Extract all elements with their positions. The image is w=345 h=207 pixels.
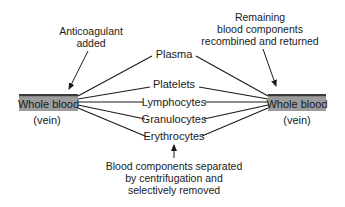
anticoagulant-line-1: Anticoagulant (59, 25, 123, 37)
component-platelets: Platelets (153, 78, 196, 90)
right-fan-lines (196, 56, 268, 136)
left-box-top-border (19, 94, 78, 96)
separation-line-3: selectively removed (128, 184, 220, 196)
component-plasma: Plasma (156, 48, 194, 60)
line-right-platelets (199, 87, 268, 99)
returned-line-2: blood components (217, 23, 303, 35)
apheresis-diagram: Whole blood (vein) Whole blood (vein) Pl… (0, 0, 345, 207)
line-right-plasma (196, 56, 268, 96)
right-whole-blood-label: Whole blood (266, 98, 327, 110)
line-left-platelets (78, 87, 150, 99)
anticoagulant-arrow-icon (69, 51, 88, 89)
separation-line-2: by centrifugation and (125, 172, 223, 184)
right-box-top-border (268, 94, 326, 96)
line-left-plasma (78, 56, 152, 96)
anticoagulant-annotation: Anticoagulant added (59, 25, 123, 89)
left-whole-blood-node: Whole blood (vein) (18, 94, 79, 126)
returned-annotation: Remaining blood components recombined an… (201, 11, 318, 86)
anticoagulant-line-2: added (76, 37, 105, 49)
left-vein-label: (vein) (33, 114, 61, 126)
component-erythrocytes: Erythrocytes (143, 130, 205, 142)
returned-arrow-icon (263, 49, 276, 86)
returned-line-1: Remaining (235, 11, 285, 23)
right-vein-label: (vein) (283, 114, 311, 126)
component-lymphocytes: Lymphocytes (142, 96, 207, 108)
returned-line-3: recombined and returned (201, 35, 318, 47)
left-whole-blood-label: Whole blood (18, 98, 79, 110)
right-whole-blood-node: Whole blood (vein) (266, 94, 327, 126)
component-granulocytes: Granulocytes (142, 113, 207, 125)
component-labels: Plasma Platelets Lymphocytes Granulocyte… (142, 48, 207, 142)
separation-line-1: Blood components separated (106, 160, 243, 172)
separation-annotation: Blood components separated by centrifuga… (106, 145, 243, 196)
